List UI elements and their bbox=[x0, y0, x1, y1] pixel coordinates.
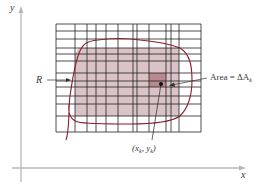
sample-point-label-x: (x bbox=[132, 143, 139, 153]
sample-point-label: (xk, yk) bbox=[132, 144, 156, 154]
sample-point-label-y: , y bbox=[142, 143, 151, 153]
sample-point-dot bbox=[159, 82, 163, 86]
region-interior bbox=[75, 48, 179, 116]
area-label-subscript: k bbox=[249, 77, 252, 83]
highlighted-cell bbox=[149, 73, 166, 87]
diagram-canvas bbox=[0, 0, 276, 186]
area-label: Area = ΔAk bbox=[210, 73, 252, 83]
sample-point-label-close: ) bbox=[153, 143, 156, 153]
area-label-main: Area = ΔA bbox=[210, 72, 249, 82]
y-axis-label: y bbox=[10, 3, 14, 13]
region-label: R bbox=[36, 75, 42, 85]
y-axis-arrow-icon bbox=[19, 6, 24, 13]
riemann-sum-region-diagram: y x R Area = ΔAk (xk, yk) bbox=[0, 0, 276, 186]
x-axis-label: x bbox=[241, 170, 245, 180]
